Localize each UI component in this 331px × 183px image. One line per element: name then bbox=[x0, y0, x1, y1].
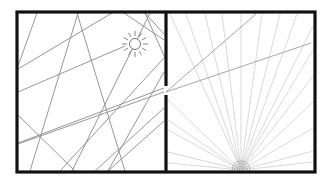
light-ray bbox=[108, 72, 164, 171]
sun-ray bbox=[129, 33, 132, 37]
projected-fan-rays bbox=[168, 14, 313, 170]
sun-icon bbox=[122, 31, 148, 57]
light-ray bbox=[18, 115, 75, 171]
diagram-canvas bbox=[0, 0, 331, 183]
fan-ray bbox=[205, 14, 241, 170]
fan-ray bbox=[186, 14, 241, 170]
fan-ray bbox=[168, 152, 241, 170]
light-ray bbox=[108, 121, 164, 171]
fan-ray bbox=[170, 14, 241, 170]
fan-ray bbox=[241, 26, 313, 170]
pinhole-diagram bbox=[0, 0, 331, 183]
fan-ray bbox=[241, 14, 297, 170]
sun-ray bbox=[139, 51, 142, 55]
light-ray bbox=[18, 13, 37, 66]
sun-ray bbox=[142, 48, 146, 51]
light-ray bbox=[145, 13, 164, 34]
fan-ray bbox=[241, 14, 280, 170]
sun-ray bbox=[124, 48, 128, 51]
sun-ray bbox=[142, 38, 146, 41]
sun-disc bbox=[130, 39, 141, 50]
light-ray bbox=[95, 108, 164, 171]
fan-ray bbox=[241, 102, 313, 170]
light-ray bbox=[72, 13, 150, 171]
pinhole-ray bbox=[166, 14, 256, 92]
fan-ray bbox=[241, 50, 313, 170]
fan-ray bbox=[168, 100, 241, 170]
fan-ray bbox=[241, 151, 313, 170]
light-ray bbox=[18, 46, 125, 92]
sun-ray bbox=[124, 38, 128, 41]
fan-ray bbox=[222, 14, 241, 170]
light-ray bbox=[18, 88, 164, 143]
light-ray bbox=[30, 13, 78, 171]
light-rays-left-room bbox=[18, 13, 166, 171]
pinhole-ray bbox=[166, 43, 311, 92]
light-ray bbox=[60, 58, 164, 171]
light-ray bbox=[145, 13, 166, 60]
light-ray bbox=[18, 13, 112, 69]
